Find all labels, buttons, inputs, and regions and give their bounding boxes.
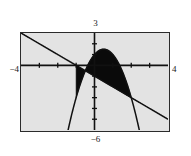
y-max-label: 3: [0, 18, 191, 28]
axes-group: [21, 33, 168, 130]
x-max-label: 4: [172, 64, 189, 74]
plot-canvas: [21, 33, 168, 130]
graph-figure: 3 −4 4 −6: [0, 0, 191, 156]
x-min-label: −4: [2, 64, 19, 74]
y-min-label: −6: [0, 134, 191, 144]
plot-frame: [20, 32, 170, 132]
